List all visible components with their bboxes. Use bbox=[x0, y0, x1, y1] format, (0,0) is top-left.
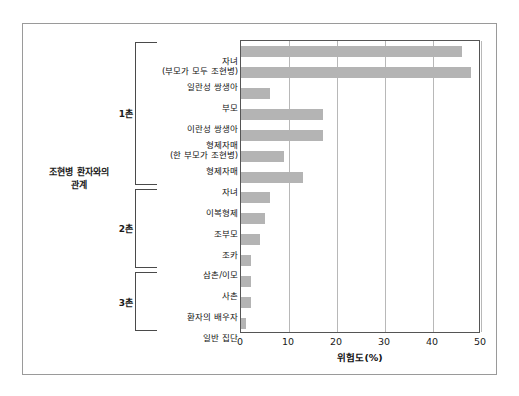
gridline bbox=[433, 41, 434, 332]
category-label: 자녀 (부모가 모두 조현병) bbox=[143, 56, 238, 77]
x-tick-label: 0 bbox=[237, 336, 243, 347]
category-label: 형제자매 (한 부모가 조현병) bbox=[143, 140, 238, 161]
bracket-label: 3촌 bbox=[109, 296, 133, 309]
x-axis-tick-labels: 01020304050 bbox=[240, 333, 480, 349]
bar bbox=[241, 318, 246, 329]
bar bbox=[241, 297, 251, 308]
x-axis-title: 위험도(%) bbox=[240, 350, 480, 364]
plot-area bbox=[240, 40, 480, 333]
gridline bbox=[481, 41, 482, 332]
bracket-label: 2촌 bbox=[109, 222, 133, 235]
category-label: 형제자매 bbox=[143, 166, 238, 177]
x-tick-label: 50 bbox=[474, 336, 486, 347]
category-label: 자녀 bbox=[143, 187, 238, 198]
category-label: 조카 bbox=[143, 250, 238, 261]
gridline bbox=[337, 41, 338, 332]
bar bbox=[241, 234, 260, 245]
bar bbox=[241, 88, 270, 99]
x-tick-label: 40 bbox=[426, 336, 438, 347]
y-axis-title: 조현병 환자와의 관계 bbox=[31, 166, 127, 192]
category-label: 부모 bbox=[143, 103, 238, 114]
bar bbox=[241, 172, 303, 183]
bar bbox=[241, 46, 462, 57]
bar bbox=[241, 67, 471, 78]
bar bbox=[241, 151, 284, 162]
x-tick-label: 10 bbox=[282, 336, 294, 347]
gridline bbox=[385, 41, 386, 332]
bar bbox=[241, 130, 323, 141]
bracket-label: 1촌 bbox=[109, 107, 133, 120]
category-label: 사촌 bbox=[143, 291, 238, 302]
category-label: 환자의 배우자 bbox=[143, 312, 238, 323]
bar bbox=[241, 255, 251, 266]
bar bbox=[241, 192, 270, 203]
bar bbox=[241, 213, 265, 224]
category-label: 이복형제 bbox=[143, 208, 238, 219]
category-label: 삼촌/이모 bbox=[143, 270, 238, 281]
category-label: 일반 집단 bbox=[143, 333, 238, 344]
category-label: 조부모 bbox=[143, 229, 238, 240]
category-label: 일란성 쌍생아 bbox=[143, 82, 238, 93]
x-tick-label: 30 bbox=[378, 336, 390, 347]
x-tick-label: 20 bbox=[330, 336, 342, 347]
bar bbox=[241, 276, 251, 287]
bar bbox=[241, 109, 323, 120]
figure-frame: 조현병 환자와의 관계 1촌2촌3촌 자녀 (부모가 모두 조현병)일란성 쌍생… bbox=[22, 23, 497, 375]
gridline bbox=[289, 41, 290, 332]
category-label: 이란성 쌍생아 bbox=[143, 124, 238, 135]
